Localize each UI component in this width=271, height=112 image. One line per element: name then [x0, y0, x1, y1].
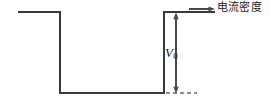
- potential-well-curve: [18, 12, 215, 93]
- well-depth-subscript: 0: [173, 51, 178, 61]
- potential-well-diagram: [0, 0, 271, 112]
- current-density-arrow-head-icon: [209, 6, 216, 11]
- well-depth-label: V0: [165, 45, 178, 61]
- current-density-axis-label: 电流密度: [217, 1, 262, 14]
- potential-well-figure: 电流密度 V0: [0, 0, 271, 112]
- well-depth-symbol: V: [165, 45, 173, 60]
- v0-arrow-head-up-icon: [173, 13, 178, 20]
